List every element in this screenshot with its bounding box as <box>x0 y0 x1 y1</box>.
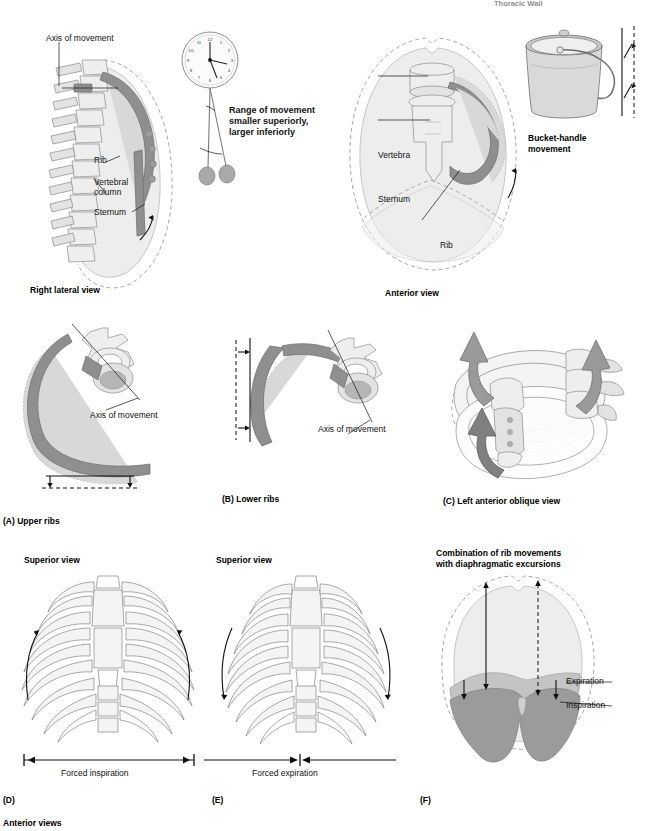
panel-c-letter: (C) <box>443 496 455 506</box>
panel-c-caption: (C) Left anterior oblique view <box>443 496 560 507</box>
pendulum-clock-illustration: 1212 345 678 91011 <box>170 30 280 200</box>
label-inspiration: Inspiration <box>566 700 605 710</box>
label-rib-lateral: Rib <box>94 155 107 165</box>
label-axis-of-movement-b: Axis of movement <box>318 424 386 434</box>
pendulum-note-line2: smaller superiorly, <box>229 116 308 126</box>
panel-f-title-line1: Combination of rib movements <box>436 548 561 559</box>
panel-d-view-label: Superior view <box>24 555 80 566</box>
label-vertebral-column: Vertebral column <box>94 177 128 197</box>
caption-bucket-handle-line1: Bucket-handle <box>528 133 587 144</box>
label-sternum-lateral: Sternum <box>94 207 126 217</box>
panel-e-view-label: Superior view <box>216 555 272 566</box>
pendulum-note-line1: Range of movement <box>229 105 315 115</box>
label-axis-of-movement-lateral: Axis of movement <box>46 33 114 43</box>
panel-f-diaphragm-illustration <box>420 570 625 780</box>
panel-c-oblique-illustration <box>420 322 630 502</box>
panel-a-letter: (A) <box>3 516 15 526</box>
label-axis-of-movement-a: Axis of movement <box>90 410 158 420</box>
svg-text:12: 12 <box>208 37 213 42</box>
panel-f-letter: (F) <box>420 795 431 806</box>
vertebra-panel-a <box>82 328 134 393</box>
svg-text:11: 11 <box>197 40 202 45</box>
panel-d-measure-label: Forced inspiration <box>61 768 129 778</box>
panel-d-ribcage-illustration <box>14 568 204 748</box>
caption-bucket-handle-line2: movement <box>528 144 571 155</box>
right-lateral-view-illustration <box>48 44 188 289</box>
ribcage-d <box>22 576 194 742</box>
caption-right-lateral-view: Right lateral view <box>30 285 100 296</box>
panel-c-title: Left anterior oblique view <box>457 496 560 506</box>
vertebra-panel-b <box>330 338 382 403</box>
panel-e-ribcage-illustration <box>212 568 402 748</box>
panel-f-title-line2: with diaphragmatic excursions <box>436 559 561 570</box>
running-header-title: Thoracic Wall <box>494 0 542 8</box>
panel-b-letter: (B) <box>222 494 234 504</box>
bucket-handle-illustration <box>510 24 650 129</box>
label-expiration: Expiration <box>566 676 604 686</box>
vertebra-block <box>409 63 455 109</box>
ribcage-e <box>226 576 386 744</box>
anterior-view-illustration <box>330 30 540 280</box>
figure-page: Thoracic Wall <box>0 0 654 831</box>
label-rib-anterior: Rib <box>440 240 453 250</box>
panel-b-lower-ribs-illustration <box>230 330 400 490</box>
panel-e-measure-label: Forced expiration <box>252 768 318 778</box>
panel-b-caption: (B) Lower ribs <box>222 494 279 505</box>
label-sternum-anterior: Sternum <box>378 194 410 204</box>
footer-caption-anterior-views: Anterior views <box>3 818 62 829</box>
caption-anterior-view: Anterior view <box>385 288 439 299</box>
panel-a-title: Upper ribs <box>17 516 60 526</box>
panel-b-title: Lower ribs <box>236 494 279 504</box>
label-vertebra-anterior: Vertebra <box>378 150 410 160</box>
pendulum-note-line3: larger inferiorly <box>229 127 295 137</box>
panel-e-letter: (E) <box>212 795 223 806</box>
panel-d-letter: (D) <box>3 795 15 806</box>
panel-a-caption: (A) Upper ribs <box>3 516 60 527</box>
svg-text:10: 10 <box>189 48 194 53</box>
